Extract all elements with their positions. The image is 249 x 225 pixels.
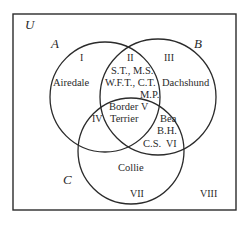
region-vii-collie: Collie [118, 162, 144, 174]
region-ii-line-1: S.T., M.S. [111, 65, 153, 77]
set-c-label: C [63, 174, 72, 186]
region-iv-numeral: IV [92, 113, 103, 125]
set-a-label: A [51, 38, 59, 50]
region-i-airedale: Airedale [53, 77, 89, 89]
universe-label: U [25, 19, 34, 31]
region-viii-numeral: VIII [200, 188, 217, 200]
region-vi-line-3: C.S. [143, 138, 161, 150]
region-vi-numeral: VI [166, 138, 177, 150]
region-vi-line-2: B.H. [157, 125, 177, 137]
region-ii-line-3: M.P. [140, 89, 159, 101]
region-iii-numeral: III [164, 52, 174, 64]
region-v-line-1: Border [109, 101, 138, 113]
region-vii-numeral: VII [130, 188, 144, 200]
region-v-line-2: Terrier [110, 113, 138, 125]
region-iii-dachshund: Dachshund [162, 77, 209, 89]
region-vi-line-1: Bea [160, 113, 176, 125]
region-v-numeral: V [141, 101, 148, 113]
region-ii-numeral: II [127, 52, 134, 64]
region-i-numeral: I [80, 52, 83, 64]
region-ii-line-2: W.F.T., C.T. [105, 77, 156, 89]
set-b-label: B [194, 38, 202, 50]
